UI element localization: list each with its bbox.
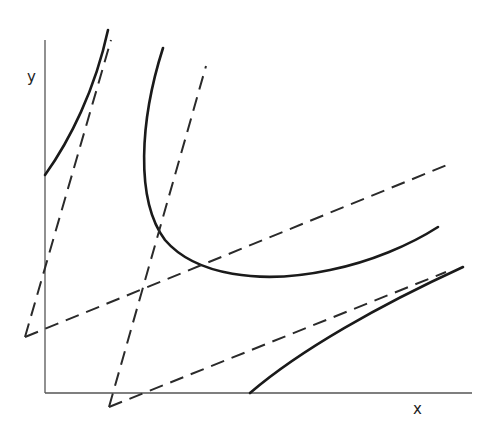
hyperbola-1-asymptote-2 bbox=[25, 165, 447, 337]
hyperbola-2-asymptote-2 bbox=[109, 272, 446, 407]
hyperbola-branches bbox=[45, 30, 463, 393]
hyperbola-1-asymptote-1 bbox=[25, 40, 111, 337]
y-axis-label: y bbox=[27, 68, 36, 86]
x-axis-label: x bbox=[413, 400, 422, 418]
hyperbola-2-asymptote-1 bbox=[109, 66, 206, 407]
hyperbola-1-branch-1 bbox=[45, 30, 108, 175]
hyperbola-2-branch-1 bbox=[250, 267, 463, 393]
diagram-svg bbox=[0, 0, 488, 433]
hyperbola-1-branch-2 bbox=[144, 48, 438, 277]
diagram-canvas: y x bbox=[0, 0, 488, 433]
